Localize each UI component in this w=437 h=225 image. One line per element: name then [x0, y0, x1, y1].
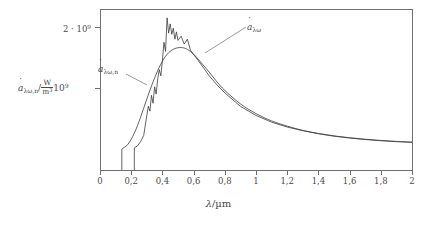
curve-label-normal: aλω,n	[98, 64, 118, 75]
curves-layer	[0, 0, 437, 225]
spectral-irradiance-chart: 00,20,40,60,811,21,41,61,82 2 · 109 aλω,…	[0, 0, 437, 225]
leader-line-normal	[126, 74, 147, 85]
curve-global-irradiance	[134, 18, 412, 170]
curve-normal-blackbody	[122, 48, 412, 170]
curve-label-global: aλω	[247, 22, 261, 33]
leader-line-global	[205, 27, 246, 53]
